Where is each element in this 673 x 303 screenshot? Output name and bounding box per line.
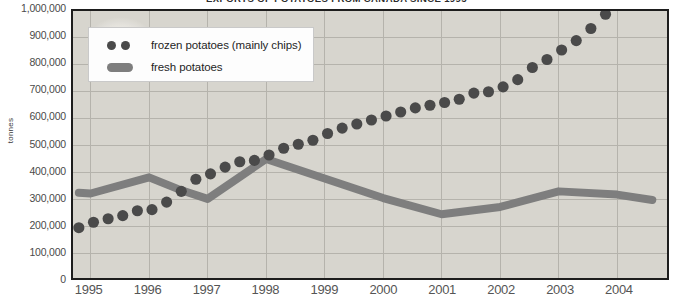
data-point-frozen-potatoes [234, 156, 245, 167]
y-tick-label: 200,000 [4, 219, 66, 231]
y-tick-label: 600,000 [4, 110, 66, 122]
x-tick-label: 2001 [412, 282, 472, 297]
data-point-frozen-potatoes [410, 102, 421, 113]
data-point-frozen-potatoes [88, 217, 99, 228]
y-tick-label: 100,000 [4, 246, 66, 258]
legend-item-fresh: fresh potatoes [107, 57, 313, 77]
x-tick-label: 2000 [353, 282, 413, 297]
data-point-frozen-potatoes [381, 110, 392, 121]
y-tick-label: 1,000,000 [4, 2, 66, 14]
x-tick-label: 1996 [118, 282, 178, 297]
y-tick-label: 800,000 [4, 56, 66, 68]
data-point-frozen-potatoes [527, 62, 538, 73]
x-tick-label: 2004 [589, 282, 649, 297]
data-point-frozen-potatoes [483, 86, 494, 97]
data-point-frozen-potatoes [556, 44, 567, 55]
y-tick-label: 400,000 [4, 165, 66, 177]
chart-legend: frozen potatoes (mainly chips) fresh pot… [88, 27, 314, 82]
data-point-frozen-potatoes [351, 118, 362, 129]
data-point-frozen-potatoes [571, 35, 582, 46]
data-point-frozen-potatoes [176, 186, 187, 197]
data-point-frozen-potatoes [220, 162, 231, 173]
data-point-frozen-potatoes [424, 100, 435, 111]
data-point-frozen-potatoes [541, 54, 552, 65]
y-axis-tick-labels: 1,000,000900,000800,000700,000600,000500… [3, 0, 66, 303]
x-tick-label: 1997 [177, 282, 237, 297]
legend-item-frozen: frozen potatoes (mainly chips) [107, 35, 313, 55]
legend-dot-icon [107, 41, 116, 50]
data-point-frozen-potatoes [395, 106, 406, 117]
x-tick-label: 1995 [59, 282, 119, 297]
data-point-frozen-potatoes [103, 213, 114, 224]
data-point-frozen-potatoes [205, 168, 216, 179]
data-point-frozen-potatoes [512, 74, 523, 85]
data-point-frozen-potatoes [439, 97, 450, 108]
y-tick-label: 700,000 [4, 83, 66, 95]
y-tick-label: 300,000 [4, 192, 66, 204]
chart-root: EXPORTS OF POTATOES FROM CANADA SINCE 19… [0, 0, 673, 303]
data-point-frozen-potatoes [337, 123, 348, 134]
data-point-frozen-potatoes [73, 222, 84, 233]
x-tick-label: 2002 [471, 282, 531, 297]
data-point-frozen-potatoes [132, 205, 143, 216]
data-point-frozen-potatoes [366, 114, 377, 125]
legend-marker-frozen-dots [107, 41, 151, 50]
x-tick-label: 2003 [530, 282, 590, 297]
y-tick-label: 900,000 [4, 29, 66, 41]
data-point-frozen-potatoes [454, 94, 465, 105]
data-point-frozen-potatoes [468, 88, 479, 99]
data-point-frozen-potatoes [293, 139, 304, 150]
legend-bar-icon [107, 63, 133, 72]
x-tick-label: 1998 [235, 282, 295, 297]
data-point-frozen-potatoes [117, 210, 128, 221]
legend-marker-fresh-bar [107, 63, 151, 72]
chart-title: EXPORTS OF POTATOES FROM CANADA SINCE 19… [0, 0, 673, 4]
data-point-frozen-potatoes [278, 143, 289, 154]
data-point-frozen-potatoes [322, 128, 333, 139]
data-point-frozen-potatoes [585, 23, 596, 34]
x-axis-tick-labels: 1995199619971998199920002001200220032004 [0, 282, 673, 303]
data-point-frozen-potatoes [600, 11, 611, 20]
data-point-frozen-potatoes [249, 155, 260, 166]
legend-label-frozen: frozen potatoes (mainly chips) [151, 39, 301, 51]
data-point-frozen-potatoes [146, 204, 157, 215]
y-tick-label: 500,000 [4, 138, 66, 150]
x-tick-label: 1999 [294, 282, 354, 297]
data-point-frozen-potatoes [498, 81, 509, 92]
data-point-frozen-potatoes [263, 149, 274, 160]
data-point-frozen-potatoes [307, 135, 318, 146]
legend-dot-icon [121, 41, 130, 50]
legend-label-fresh: fresh potatoes [151, 61, 222, 73]
data-point-frozen-potatoes [161, 197, 172, 208]
data-point-frozen-potatoes [190, 174, 201, 185]
